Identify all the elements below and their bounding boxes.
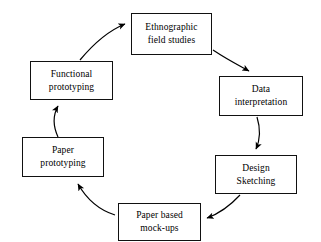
node-label-line-2: interpretation (235, 96, 288, 109)
node-label-line-1: Data (252, 83, 270, 96)
node-label-line-1: Functional (51, 68, 93, 81)
arrow-funcproto-to-ethnographic (80, 24, 125, 60)
node-design-sketching[interactable]: Design Sketching (215, 155, 297, 194)
node-ethnographic-field-studies[interactable]: Ethnographic field studies (131, 13, 212, 55)
arrow-design-to-mockups (207, 195, 240, 218)
node-label-line-2: prototyping (49, 81, 94, 94)
node-label-line-2: prototyping (40, 157, 85, 170)
arrow-paperproto-to-funcproto (54, 106, 58, 137)
arrow-ethnographic-to-data (213, 50, 249, 71)
cycle-diagram: Ethnographic field studies Data interpre… (0, 0, 321, 242)
node-data-interpretation[interactable]: Data interpretation (219, 76, 303, 116)
node-label-line-2: Sketching (237, 175, 276, 188)
node-label-line-1: Paper (52, 144, 74, 157)
node-paper-based-mock-ups[interactable]: Paper based mock-ups (118, 203, 201, 241)
node-label-line-1: Design (242, 162, 270, 175)
node-paper-prototyping[interactable]: Paper prototyping (22, 137, 104, 177)
arrow-mockups-to-paperproto (78, 184, 115, 215)
node-label-line-2: mock-ups (140, 222, 178, 235)
node-functional-prototyping[interactable]: Functional prototyping (30, 61, 113, 100)
arrow-data-to-design (256, 117, 260, 149)
node-label-line-2: field studies (148, 34, 195, 47)
node-label-line-1: Ethnographic (145, 21, 197, 34)
node-label-line-1: Paper based (136, 209, 183, 222)
